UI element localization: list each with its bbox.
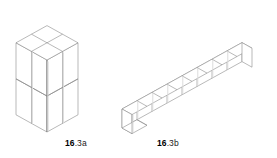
figure-label-suffix: .3b (167, 138, 179, 148)
figure-16-3a (16, 26, 78, 132)
end-face (242, 43, 252, 68)
figure-label-number: 16 (65, 138, 75, 148)
figure-label-suffix: .3a (75, 138, 87, 148)
chain-end-face (242, 43, 252, 68)
figure-16-3b (122, 43, 252, 134)
figure-label-number: 16 (157, 138, 167, 148)
figure-label-16-3b: 16.3b (157, 139, 179, 148)
figure-label-16-3a: 16.3a (65, 139, 87, 148)
figure-canvas (0, 0, 277, 158)
chain-top-face (122, 43, 252, 115)
